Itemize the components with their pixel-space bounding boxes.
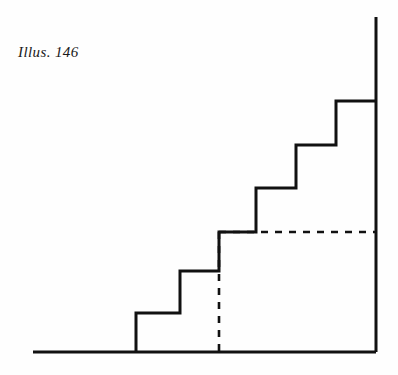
staircase-diagram (0, 0, 398, 375)
step-profile-line (136, 101, 376, 352)
illustration-page: Illus. 146 (0, 0, 398, 375)
